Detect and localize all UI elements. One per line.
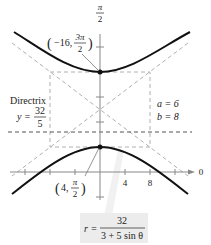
- lower-vertex-r: 4,: [61, 182, 69, 193]
- upper-vertex-paren-close: ): [88, 36, 93, 52]
- directrix-denominator: 5: [38, 118, 43, 129]
- vertical-axis-label-num: π: [98, 2, 103, 12]
- lower-vertex-theta-den: 2: [73, 189, 78, 199]
- lower-vertex-paren-open: (: [55, 181, 60, 197]
- upper-branch: [14, 32, 190, 72]
- upper-vertex-theta-num: 3π: [74, 32, 85, 42]
- upper-vertex-leader: [82, 54, 99, 71]
- directrix-numerator: 32: [35, 105, 45, 116]
- lower-vertex-theta-num: π: [73, 177, 78, 187]
- equation-numerator: 32: [117, 215, 127, 226]
- polar-axis-arrow-icon: [188, 170, 195, 175]
- directrix-lhs: y =: [16, 111, 31, 122]
- parameter-b: b = 8: [157, 111, 179, 122]
- upper-vertex-theta-den: 2: [78, 44, 83, 54]
- parameter-a: a = 6: [157, 98, 179, 109]
- lower-vertex-paren-close: ): [81, 181, 86, 197]
- tick-label-4: 4: [123, 178, 128, 188]
- diagram-canvas: π 2 0 4 8 ( −16, 3π 2 ) ( 4, π 2 ) Direc…: [0, 0, 211, 245]
- vertical-axis-label-den: 2: [98, 14, 103, 24]
- polar-axis-label: 0: [199, 167, 204, 177]
- hyperbola-diagram: π 2 0 4 8 ( −16, 3π 2 ) ( 4, π 2 ) Direc…: [0, 0, 211, 245]
- equation-lhs: r =: [84, 223, 97, 234]
- equation-callout: [104, 150, 124, 216]
- tick-label-8: 8: [148, 178, 153, 188]
- upper-vertex-paren-open: (: [47, 36, 52, 52]
- upper-vertex-r: −16,: [54, 37, 72, 48]
- equation-denominator: 3 + 5 sin θ: [101, 230, 143, 241]
